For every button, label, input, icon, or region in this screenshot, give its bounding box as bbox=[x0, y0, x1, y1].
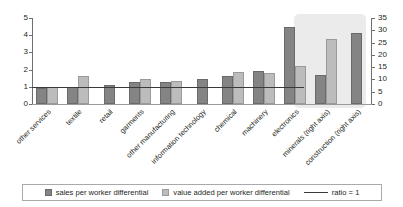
left-tick-label: 3 bbox=[12, 48, 28, 56]
chart-legend: sales per worker differential value adde… bbox=[22, 184, 382, 201]
right-tick-mark bbox=[372, 92, 375, 93]
bar-sales-per-worker-differential-other-services bbox=[36, 88, 47, 104]
bar-value-added-per-worker-differential-minerals-right-axis- bbox=[326, 39, 337, 104]
right-tick-label: 5 bbox=[378, 88, 382, 96]
right-tick-label: 30 bbox=[378, 26, 387, 34]
left-tick-label: 4 bbox=[12, 31, 28, 39]
legend-label-ratio: ratio = 1 bbox=[332, 189, 360, 197]
bar-sales-per-worker-differential-information-technology bbox=[197, 79, 208, 104]
left-tick-label: 2 bbox=[12, 66, 28, 74]
bar-sales-per-worker-differential-machinery bbox=[253, 71, 264, 104]
right-tick-mark bbox=[372, 79, 375, 80]
bar-sales-per-worker-differential-textile bbox=[67, 87, 78, 104]
left-y-axis bbox=[32, 18, 33, 105]
bar-sales-per-worker-differential-retail bbox=[104, 85, 115, 104]
left-tick-mark bbox=[29, 104, 32, 105]
bar-value-added-per-worker-differential-machinery bbox=[264, 73, 275, 104]
right-tick-mark bbox=[372, 30, 375, 31]
left-tick-mark bbox=[29, 18, 32, 19]
bar-sales-per-worker-differential-garments bbox=[129, 82, 140, 104]
left-tick-label: 1 bbox=[12, 83, 28, 91]
legend-light-swatch-icon bbox=[162, 189, 169, 196]
legend-line-icon bbox=[304, 192, 328, 193]
legend-item-ratio: ratio = 1 bbox=[304, 189, 360, 197]
clipped-header-text bbox=[6, 0, 306, 6]
legend-label-sales: sales per worker differential bbox=[56, 189, 149, 197]
bar-sales-per-worker-differential-minerals-right-axis- bbox=[315, 75, 326, 104]
right-tick-mark bbox=[372, 18, 375, 19]
right-tick-label: 0 bbox=[378, 100, 382, 108]
left-tick-label: 0 bbox=[12, 100, 28, 108]
bar-sales-per-worker-differential-other-manufacturing bbox=[160, 82, 171, 104]
bar-sales-per-worker-differential-construction-right-axis- bbox=[351, 33, 362, 104]
bar-value-added-per-worker-differential-other-services bbox=[47, 87, 58, 104]
left-tick-mark bbox=[29, 70, 32, 71]
right-tick-label: 10 bbox=[378, 75, 387, 83]
right-tick-label: 15 bbox=[378, 63, 387, 71]
bar-value-added-per-worker-differential-chemical bbox=[233, 72, 244, 104]
right-tick-label: 35 bbox=[378, 14, 387, 22]
bar-value-added-per-worker-differential-garments bbox=[140, 79, 151, 104]
plot-area bbox=[32, 18, 372, 104]
x-axis-baseline bbox=[32, 104, 372, 105]
legend-item-value-added: value added per worker differential bbox=[162, 189, 289, 197]
bar-sales-per-worker-differential-chemical bbox=[222, 76, 233, 104]
left-tick-label: 5 bbox=[12, 14, 28, 22]
right-tick-mark bbox=[372, 67, 375, 68]
left-tick-mark bbox=[29, 87, 32, 88]
chart-root: 012345 05101520253035 other servicestext… bbox=[0, 0, 403, 207]
bar-sales-per-worker-differential-electronics bbox=[284, 27, 295, 104]
right-tick-mark bbox=[372, 55, 375, 56]
left-tick-mark bbox=[29, 52, 32, 53]
bar-value-added-per-worker-differential-textile bbox=[78, 76, 89, 104]
legend-dark-swatch-icon bbox=[45, 189, 52, 196]
bar-value-added-per-worker-differential-electronics bbox=[295, 66, 306, 104]
ratio-reference-line bbox=[32, 87, 304, 88]
legend-item-sales: sales per worker differential bbox=[45, 189, 149, 197]
left-tick-mark bbox=[29, 35, 32, 36]
legend-label-value-added: value added per worker differential bbox=[173, 189, 289, 197]
right-tick-label: 25 bbox=[378, 39, 387, 47]
right-tick-mark bbox=[372, 104, 375, 105]
right-tick-mark bbox=[372, 43, 375, 44]
right-tick-label: 20 bbox=[378, 51, 387, 59]
bar-value-added-per-worker-differential-other-manufacturing bbox=[171, 81, 182, 104]
